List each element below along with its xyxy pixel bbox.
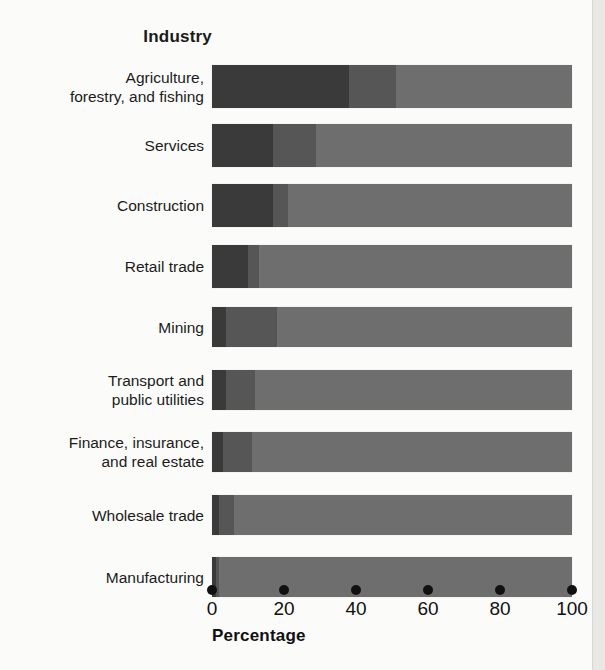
category-label: Retail trade [0,257,204,276]
category-label-line: Finance, insurance, [0,433,204,452]
category-label: Wholesale trade [0,506,204,525]
x-axis-tick-label: 40 [326,598,386,620]
x-axis-tick-label: 20 [254,598,314,620]
stacked-bar[interactable] [212,370,572,410]
bar-segment-segment-1[interactable] [212,307,226,347]
x-axis-tick-dot [567,585,577,595]
bar-segment-segment-1[interactable] [212,370,226,410]
stacked-bar[interactable] [212,495,572,535]
chart-row: Finance, insurance,and real estate [0,432,592,472]
category-label-line: Transport and [0,371,204,390]
chart-row: Construction [0,184,592,227]
bar-segment-segment-2[interactable] [273,184,287,227]
chart-row: Wholesale trade [0,495,592,535]
category-label: Finance, insurance,and real estate [0,433,204,471]
stacked-bar[interactable] [212,65,572,108]
category-label-line: Services [0,136,204,155]
bar-segment-segment-1[interactable] [212,245,248,288]
stacked-bar[interactable] [212,245,572,288]
x-axis-tick-dot [495,585,505,595]
stacked-bar[interactable] [212,307,572,347]
stacked-bar[interactable] [212,432,572,472]
category-label: Mining [0,318,204,337]
category-label: Transport andpublic utilities [0,371,204,409]
chart-row: Services [0,124,592,167]
category-label-line: Agriculture, [0,68,204,87]
x-axis-tick-label: 80 [470,598,530,620]
bar-segment-segment-2[interactable] [226,307,276,347]
y-axis-title: Industry [100,27,212,47]
x-axis-title: Percentage [212,626,306,646]
bar-segment-segment-1[interactable] [212,65,349,108]
category-label-line: forestry, and fishing [0,87,204,106]
bar-segment-segment-1[interactable] [212,432,223,472]
chart-row: Retail trade [0,245,592,288]
bar-segment-segment-3[interactable] [234,495,572,535]
bar-segment-segment-2[interactable] [219,495,233,535]
bar-segment-segment-3[interactable] [316,124,572,167]
category-label: Agriculture,forestry, and fishing [0,68,204,106]
category-label-line: and real estate [0,452,204,471]
x-axis-tick-dot [279,585,289,595]
bar-segment-segment-3[interactable] [277,307,572,347]
category-label-line: Retail trade [0,257,204,276]
category-label-line: Wholesale trade [0,506,204,525]
chart-row: Transport andpublic utilities [0,370,592,410]
x-axis: Percentage 020406080100 [0,578,592,670]
page-edge [592,0,605,670]
bar-segment-segment-3[interactable] [288,184,572,227]
bar-segment-segment-3[interactable] [255,370,572,410]
chart-row: Mining [0,307,592,347]
stacked-bar[interactable] [212,184,572,227]
category-label: Construction [0,196,204,215]
x-axis-tick-dot [207,585,217,595]
category-label-line: Construction [0,196,204,215]
bar-segment-segment-3[interactable] [396,65,572,108]
bar-segment-segment-3[interactable] [259,245,572,288]
bar-segment-segment-2[interactable] [248,245,259,288]
bar-segment-segment-2[interactable] [223,432,252,472]
plot-area: Agriculture,forestry, and fishingService… [0,58,592,578]
x-axis-tick-label: 60 [398,598,458,620]
stacked-bar[interactable] [212,124,572,167]
bar-segment-segment-2[interactable] [226,370,255,410]
x-axis-tick-dot [423,585,433,595]
bar-segment-segment-1[interactable] [212,495,219,535]
bar-segment-segment-2[interactable] [349,65,396,108]
x-axis-tick-label: 100 [542,598,602,620]
x-axis-tick-label: 0 [182,598,242,620]
category-label: Services [0,136,204,155]
chart-row: Agriculture,forestry, and fishing [0,65,592,108]
bar-segment-segment-1[interactable] [212,124,273,167]
bar-segment-segment-1[interactable] [212,184,273,227]
category-label-line: Mining [0,318,204,337]
category-label-line: public utilities [0,390,204,409]
bar-segment-segment-2[interactable] [273,124,316,167]
bar-segment-segment-3[interactable] [252,432,572,472]
x-axis-tick-dot [351,585,361,595]
